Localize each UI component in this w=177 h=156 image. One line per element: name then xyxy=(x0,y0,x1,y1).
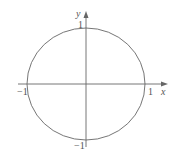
tick-x-pos: 1 xyxy=(148,86,153,97)
unit-circle-diagram: y x 1 −1 −1 1 xyxy=(0,0,177,156)
y-axis-arrow-icon xyxy=(84,11,89,18)
x-axis-label: x xyxy=(160,86,166,97)
tick-x-neg: −1 xyxy=(17,86,28,97)
y-axis-label: y xyxy=(75,8,81,19)
tick-y-neg: −1 xyxy=(74,140,85,151)
tick-y-pos: 1 xyxy=(78,19,83,30)
